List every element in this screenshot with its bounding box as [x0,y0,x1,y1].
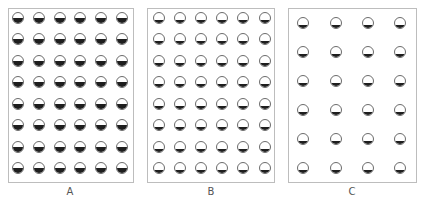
circle-fill [298,112,308,115]
half-filled-circle-icon [54,76,66,88]
half-filled-circle-icon [54,162,66,174]
circle-fill [13,125,23,130]
half-filled-circle-icon [195,141,207,153]
circle-fill [34,125,44,130]
half-filled-circle-icon [195,33,207,45]
circle-fill [175,63,185,66]
half-filled-circle-icon [116,141,128,153]
half-filled-circle-icon [259,33,271,45]
half-filled-circle-icon [362,75,374,87]
circle-fill [196,149,206,152]
circle-fill [34,39,44,44]
circle-fill [55,104,65,109]
half-filled-circle-icon [174,33,186,45]
half-filled-circle-icon [153,33,165,45]
circle-fill [363,54,373,57]
panel-a-box [8,8,134,183]
circle-fill [75,168,85,173]
circle-fill [96,39,106,44]
half-filled-circle-icon [33,55,45,67]
half-filled-circle-icon [394,46,406,58]
half-filled-circle-icon [195,98,207,110]
half-filled-circle-icon [12,33,24,45]
half-filled-circle-icon [74,55,86,67]
circle-fill [96,82,106,87]
half-filled-circle-icon [362,162,374,174]
circle-fill [34,18,44,23]
half-filled-circle-icon [237,162,249,174]
half-filled-circle-icon [237,76,249,88]
half-filled-circle-icon [12,119,24,131]
circle-fill [260,170,270,173]
panel-c-box [288,8,417,183]
circle-fill [175,20,185,23]
half-filled-circle-icon [216,76,228,88]
half-filled-circle-icon [95,98,107,110]
circle-fill [298,141,308,144]
half-filled-circle-icon [95,162,107,174]
half-filled-circle-icon [54,119,66,131]
circle-fill [331,83,341,86]
half-filled-circle-icon [116,119,128,131]
half-filled-circle-icon [174,141,186,153]
circle-fill [175,170,185,173]
circle-fill [75,61,85,66]
half-filled-circle-icon [216,162,228,174]
circle-fill [217,63,227,66]
half-filled-circle-icon [95,33,107,45]
circle-fill [34,168,44,173]
circle-fill [175,41,185,44]
circle-fill [260,106,270,109]
half-filled-circle-icon [330,162,342,174]
circle-fill [196,127,206,130]
circle-fill [238,63,248,66]
half-filled-circle-icon [362,133,374,145]
half-filled-circle-icon [74,162,86,174]
circle-fill [196,63,206,66]
half-filled-circle-icon [195,55,207,67]
circle-fill [217,106,227,109]
half-filled-circle-icon [33,76,45,88]
circle-fill [75,104,85,109]
half-filled-circle-icon [174,98,186,110]
half-filled-circle-icon [195,12,207,24]
circle-fill [238,170,248,173]
half-filled-circle-icon [195,76,207,88]
half-filled-circle-icon [297,162,309,174]
half-filled-circle-icon [33,119,45,131]
half-filled-circle-icon [330,133,342,145]
half-filled-circle-icon [394,162,406,174]
half-filled-circle-icon [12,12,24,24]
circle-fill [331,170,341,173]
half-filled-circle-icon [33,98,45,110]
circle-fill [175,149,185,152]
circle-fill [34,82,44,87]
half-filled-circle-icon [116,76,128,88]
half-filled-circle-icon [12,162,24,174]
circle-fill [34,61,44,66]
half-filled-circle-icon [237,33,249,45]
half-filled-circle-icon [174,55,186,67]
half-filled-circle-icon [33,33,45,45]
circle-fill [13,82,23,87]
half-filled-circle-icon [54,141,66,153]
half-filled-circle-icon [54,12,66,24]
half-filled-circle-icon [394,75,406,87]
half-filled-circle-icon [394,17,406,29]
circle-fill [117,104,127,109]
circle-fill [154,84,164,87]
panel-a-label: A [60,186,80,198]
panel-b-label: B [201,186,221,198]
circle-fill [117,61,127,66]
half-filled-circle-icon [195,119,207,131]
half-filled-circle-icon [153,162,165,174]
circle-fill [96,61,106,66]
half-filled-circle-icon [216,33,228,45]
half-filled-circle-icon [237,12,249,24]
circle-fill [175,84,185,87]
circle-fill [217,84,227,87]
circle-fill [196,41,206,44]
circle-fill [13,168,23,173]
half-filled-circle-icon [174,76,186,88]
circle-fill [117,18,127,23]
